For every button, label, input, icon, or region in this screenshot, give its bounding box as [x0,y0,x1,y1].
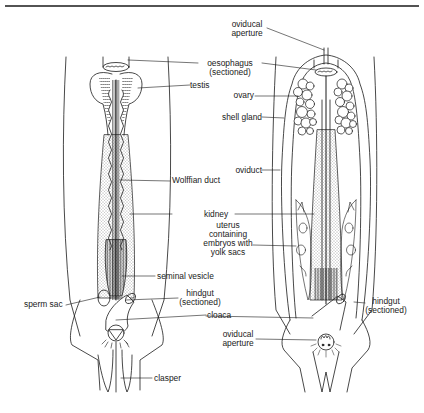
label-shell-gland: shell gland [200,113,262,122]
label-line: (sectioned) [195,68,265,77]
male-body-wall-left [63,57,80,336]
dogfish-urogenital-diagram: oviducal aperture oesophagus (sectioned)… [0,0,424,413]
label-wolffian-duct: Wolffian duct [172,176,220,185]
label-sperm-sac: sperm sac [24,300,63,309]
male-specimen [63,57,170,392]
label-kidney: kidney [204,210,228,219]
label-line: (sectioned) [362,306,410,315]
oviducal-aperture-bottom [318,334,334,350]
oesophagus-section-male [103,63,129,72]
label-line: yolk sacs [200,248,256,257]
label-oviducal-aperture-bottom: oviducal aperture [218,330,258,348]
male-body-wall-right [152,57,171,336]
label-cloaca: cloaca [207,311,231,320]
label-line: (sectioned) [176,298,224,307]
hindgut-female [312,296,346,330]
label-uterus: uterus containing embryos with yolk sacs [200,221,256,257]
label-clasper: clasper [154,374,181,383]
uterus-left [296,200,311,300]
male-pelvic-fin-left [70,300,100,390]
label-hindgut-female: hindgut (sectioned) [362,297,410,315]
label-testis: testis [190,81,210,90]
label-oviducal-aperture-top: oviducal aperture [222,20,272,38]
label-ovary: ovary [214,91,254,100]
label-seminal-vesicle: seminal vesicle [157,272,214,281]
label-line: aperture [222,29,272,38]
label-oviduct: oviduct [220,166,262,175]
seminal-vesicle [105,240,127,296]
label-line: aperture [218,339,258,348]
ovary-left [294,79,317,135]
ovary-right [334,79,357,135]
uterus-right [341,200,356,300]
female-specimen [272,48,377,392]
cloaca-male [108,325,124,341]
label-oesophagus: oesophagus (sectioned) [195,59,265,77]
clasper-left [98,350,113,392]
clasper-right [122,350,132,392]
label-hindgut-male: hindgut (sectioned) [176,289,224,307]
